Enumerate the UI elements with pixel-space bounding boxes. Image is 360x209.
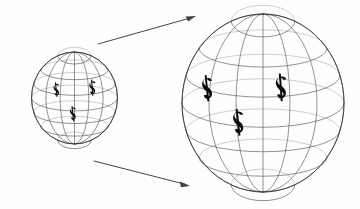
globes-layer [32, 5, 345, 200]
diagram-canvas [0, 0, 360, 209]
meridian-line [32, 52, 75, 144]
meridian-line [60, 52, 74, 144]
dollar-sign-right-icon [275, 73, 288, 101]
arrow-bottom [94, 161, 190, 187]
meridian-line [75, 52, 89, 144]
dollar-sign-left-icon [53, 82, 60, 97]
arrow-top [98, 16, 196, 44]
arrow-top-head [186, 16, 197, 22]
dollar-sign-left-icon [201, 75, 214, 102]
dollar-sign-bottom-icon [232, 108, 245, 136]
arrow-top-shaft [98, 18, 192, 45]
large-globe [182, 5, 344, 200]
meridian-line [263, 14, 344, 192]
meridian-line [236, 14, 263, 192]
globe-growth-diagram: Two wireframe globes marked with dollar … [0, 0, 360, 209]
dollar-sign-right-icon [89, 79, 96, 95]
arrow-bottom-head [180, 182, 190, 188]
meridian-line [182, 14, 263, 192]
dollar-sign-bottom-icon [69, 106, 77, 122]
meridian-line [75, 52, 118, 144]
small-globe [32, 47, 118, 148]
arrow-bottom-shaft [94, 161, 186, 185]
meridian-line [263, 14, 290, 192]
